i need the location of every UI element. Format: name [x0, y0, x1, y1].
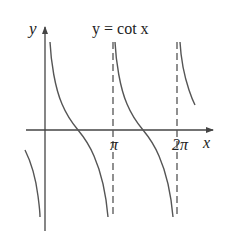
- y-axis-label: y: [27, 19, 37, 38]
- chart-title: y = cot x: [92, 20, 149, 38]
- x-axis-label: x: [202, 134, 210, 151]
- curve-branch-right: [180, 42, 195, 105]
- curve-branch-left: [25, 150, 40, 217]
- tick-label-pi: π: [110, 136, 119, 153]
- cot-graph: y y = cot x π 2π x: [0, 0, 228, 243]
- tick-label-2pi: 2π: [172, 136, 189, 153]
